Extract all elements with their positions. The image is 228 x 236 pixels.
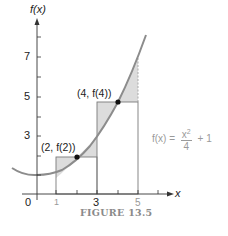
y-tick-label-7: 7 xyxy=(24,50,30,62)
formula-lhs: f(x) = xyxy=(152,133,175,144)
y-tick-label-5: 5 xyxy=(24,90,30,102)
chart-canvas xyxy=(0,0,228,236)
x-ticks xyxy=(56,190,158,194)
formula-tail: + 1 xyxy=(198,133,212,144)
function-curve xyxy=(12,35,146,175)
x-axis-label: x xyxy=(175,187,181,199)
point-4-label: (4, f(4)) xyxy=(77,87,111,99)
formula-fraction: x2 4 xyxy=(181,126,192,152)
formula-exponent: 2 xyxy=(187,128,191,135)
origin-label: 0 xyxy=(25,196,31,208)
y-ticks xyxy=(37,37,41,175)
function-formula: f(x) = x2 4 + 1 xyxy=(152,126,212,152)
x-tick-label-1: 1 xyxy=(54,197,59,207)
y-axis-label: f(x) xyxy=(30,3,46,15)
point-2-label: (2, f(2)) xyxy=(41,141,75,153)
figure-caption: FIGURE 13.5 xyxy=(80,207,152,218)
y-axis-arrow xyxy=(35,18,40,25)
x-axis-arrow xyxy=(167,192,174,197)
point-2 xyxy=(74,154,79,159)
figure: f(x) x 7 5 3 0 1 3 5 (2, f(2)) (4, f(4))… xyxy=(0,0,228,236)
formula-denominator: 4 xyxy=(181,141,192,152)
y-tick-label-3: 3 xyxy=(24,129,30,141)
point-4 xyxy=(115,99,120,104)
